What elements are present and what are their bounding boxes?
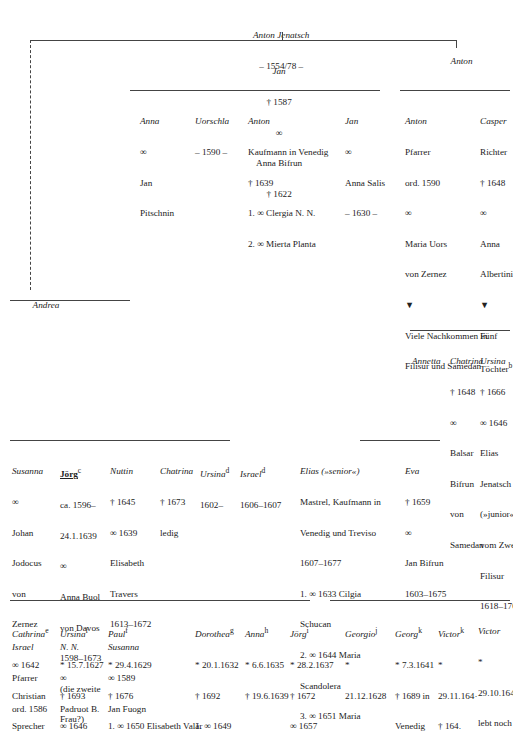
person-name: Susanna <box>12 466 43 476</box>
person-anton-gen1: Anton <box>446 46 473 66</box>
person-detail: Elias <box>480 448 513 458</box>
person-name: Annetta <box>412 356 441 366</box>
person-chatrina-ledig: Chatrina † 1673 ledig <box>160 446 193 548</box>
person-detail: Jan <box>140 178 174 188</box>
person-detail: Anna <box>480 239 513 249</box>
footnote-mark: d <box>261 466 265 475</box>
person-detail: Elisabeth <box>110 558 151 568</box>
anton-pfarrer-children-bar <box>410 330 510 331</box>
person-name: Georg <box>395 629 418 639</box>
person-detail: * <box>478 657 513 667</box>
person-name: Victor <box>438 629 460 639</box>
person-chatrina-bifrun: Chatrina † 1648 ∞ Balsar Bifrun von Same… <box>450 336 484 560</box>
person-anna-1635: Annah * 6.6.1635 † 19.6.1639 <box>245 606 289 711</box>
person-jan-salis: Jan ∞ Anna Salis – 1630 – <box>345 96 385 229</box>
gen1-bar <box>30 40 456 41</box>
person-name: Ursina <box>60 629 86 639</box>
person-detail: † 1659 <box>405 497 446 507</box>
person-detail: ∞ <box>345 147 385 157</box>
person-detail: (»junior«) <box>480 509 513 519</box>
person-detail: Richter <box>480 147 513 157</box>
footnote-mark: k <box>460 626 464 635</box>
footnote-mark: f <box>125 626 128 635</box>
person-detail: 1. ∞ 1649 <box>195 721 239 731</box>
person-detail: Anna Salis <box>345 178 385 188</box>
person-paul: Paulf * 29.4.1629 † 1676 1. ∞ 1650 Elisa… <box>108 606 202 731</box>
person-ursina-1602: Ursinad 1602– <box>200 446 229 520</box>
person-detail: † 1692 <box>195 691 239 701</box>
person-detail: * 7.3.1641 <box>395 660 434 670</box>
person-detail: von <box>450 509 484 519</box>
person-detail: Balsar <box>450 448 484 458</box>
person-detail: 2. ∞ Mierta Planta <box>248 239 328 249</box>
person-detail: ∞ <box>60 561 101 571</box>
person-detail: ∞ <box>480 208 513 218</box>
person-detail: Travers <box>110 589 151 599</box>
person-georg: Georgk * 7.3.1641 † 1689 in Venedig ∞ 16… <box>395 606 434 731</box>
person-detail: Filisur <box>480 571 513 581</box>
person-detail: 1. ∞ 1633 Cilgia <box>300 589 383 599</box>
person-georgio: Georgioj * 21.12.1628 <box>345 606 386 711</box>
person-detail: * 29.4.1629 <box>108 660 202 670</box>
person-name: Elias (»senior«) <box>300 466 383 476</box>
person-name: Georgio <box>345 629 375 639</box>
person-name: Ursina <box>200 469 226 479</box>
person-detail: * 6.6.1635 <box>245 660 289 670</box>
person-detail: ∞ 1646 <box>480 418 513 428</box>
person-detail: Bifrun <box>450 479 484 489</box>
footnote-mark: e <box>45 626 48 635</box>
person-name: Jan <box>256 66 302 76</box>
person-uorschla: Uorschla – 1590 – <box>195 96 229 167</box>
person-detail: ledig <box>160 528 193 538</box>
person-victor-1645: Victor * 29.10.1645 lebt noch 1665 <box>478 606 513 731</box>
israel-children-bar <box>10 440 230 441</box>
footnote-mark: g <box>230 626 234 635</box>
person-detail: † 1673 <box>160 497 193 507</box>
person-name: Jan <box>345 116 385 126</box>
person-detail: 29.11.164· <box>438 691 477 701</box>
person-detail: * <box>345 660 386 670</box>
jorg-children-bar <box>10 600 310 601</box>
person-detail: † 164. <box>438 721 477 731</box>
person-detail: vom Zweig <box>480 540 513 550</box>
person-detail: ∞ <box>450 418 484 428</box>
person-detail: * 28.2.1637 <box>290 660 334 670</box>
person-detail: 29.10.1645 <box>478 688 513 698</box>
person-anna: Anna ∞ Jan Pitschnin <box>140 96 174 229</box>
person-name: Dorothea <box>195 629 230 639</box>
person-detail: – 1590 – <box>195 147 229 157</box>
jan-children-bar <box>130 90 380 91</box>
person-detail: 1606–1607 <box>240 500 281 510</box>
person-detail: Albertini <box>480 269 513 279</box>
person-detail: † 1645 <box>110 497 151 507</box>
person-detail: ∞ 1642 <box>12 660 49 670</box>
person-detail: von <box>12 589 43 599</box>
person-cathrina: Cathrinae ∞ 1642 Christian Sprecher <box>12 606 49 731</box>
person-name: Jörg <box>60 469 78 479</box>
person-name: Paul <box>108 629 125 639</box>
person-detail: von Zernez <box>405 269 488 279</box>
person-detail: Pfarrer <box>405 147 488 157</box>
person-detail: ∞ 1657 <box>290 721 334 731</box>
person-detail: 24.1.1639 <box>60 531 101 541</box>
person-name: Anton <box>451 56 473 66</box>
person-detail: ∞ <box>140 147 174 157</box>
person-jorg-1637: Jörgi * 28.2.1637 † 1672 ∞ 1657 Barbara … <box>290 606 334 731</box>
person-detail: 1607–1677 <box>300 558 383 568</box>
person-dorothea: Dorotheag * 20.1.1632 † 1692 1. ∞ 1649 J… <box>195 606 239 731</box>
person-detail: – 1630 – <box>345 208 385 218</box>
footnote-mark: f <box>86 626 89 635</box>
person-annetta: Annetta <box>412 336 441 377</box>
person-name: Nuttin <box>110 466 151 476</box>
person-name: Israel <box>240 469 261 479</box>
person-detail: † 1676 <box>108 691 202 701</box>
person-detail: † 1689 in <box>395 691 434 701</box>
person-victor-164x: Victork * 29.11.164· † 164. <box>438 606 477 731</box>
person-detail: Pitschnin <box>140 208 174 218</box>
person-detail: ord. 1590 <box>405 178 488 188</box>
person-name: Chatrina <box>450 356 484 366</box>
andrea-dash-line <box>30 40 31 290</box>
person-israel-1606: Israeld 1606–1607 <box>240 446 281 520</box>
person-detail: † 1666 <box>480 387 513 397</box>
person-ursina-elias: Ursina † 1666 ∞ 1646 Elias Jenatsch (»ju… <box>480 336 513 622</box>
